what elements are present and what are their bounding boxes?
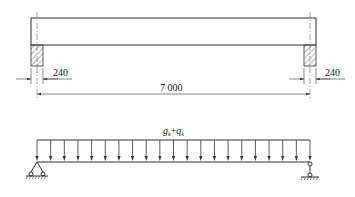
load-arrow — [199, 140, 202, 161]
beam-diagram: 240 240 7 000 gk+qk — [0, 0, 355, 197]
load-arrow — [186, 140, 189, 161]
right-support-dimension: 240 — [289, 67, 345, 84]
left-support-width-label: 240 — [53, 67, 68, 78]
right-roller-support — [301, 162, 319, 180]
load-arrow — [131, 140, 134, 161]
load-arrow — [90, 140, 93, 161]
load-arrow — [281, 140, 284, 161]
left-pin-support — [26, 162, 48, 179]
load-label: gk+qk — [163, 125, 184, 137]
load-arrow — [172, 140, 175, 161]
beam-elevation: 240 240 7 000 — [16, 12, 345, 100]
load-arrow — [35, 140, 38, 161]
load-arrow — [240, 140, 243, 161]
load-arrow — [76, 140, 79, 161]
load-label-q-sub: k — [181, 131, 184, 137]
load-arrow — [63, 140, 66, 161]
load-arrow — [213, 140, 216, 161]
load-arrow — [227, 140, 230, 161]
load-arrow — [308, 140, 311, 161]
right-support-width-label: 240 — [325, 67, 340, 78]
load-arrow — [295, 140, 298, 161]
load-arrow — [158, 140, 161, 161]
span-dimension: 7 000 — [37, 82, 310, 94]
beam-body — [31, 18, 316, 45]
load-arrow — [267, 140, 270, 161]
load-arrow — [117, 140, 120, 161]
left-support-dimension: 240 — [16, 67, 72, 84]
span-label: 7 000 — [160, 82, 183, 93]
load-arrow — [145, 140, 148, 161]
load-arrow — [104, 140, 107, 161]
load-arrow — [49, 140, 52, 161]
load-diagram: gk+qk — [26, 125, 319, 180]
load-arrows — [35, 140, 311, 161]
load-arrow — [254, 140, 257, 161]
